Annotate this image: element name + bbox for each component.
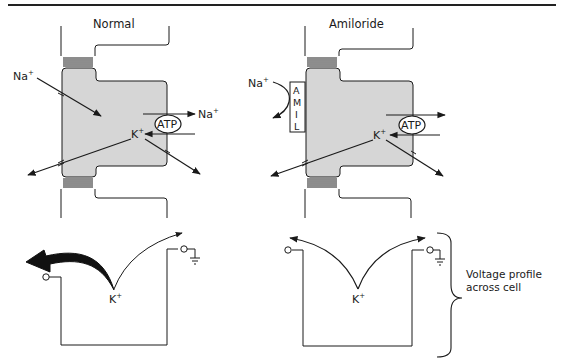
profile-k-label: K+ [109,292,122,306]
epithelial-cell [62,68,167,177]
diagram-canvas: Normal Na+ Na+ ATP K+ [0,0,562,360]
blocker-letter: A [293,85,300,96]
atp-label: ATP [401,119,421,132]
na-out-label: Na+ [198,107,219,121]
na-ion-label: Na+ [13,69,34,83]
panel-title-amiloride: Amiloride [329,17,384,31]
tight-junction-bottom [63,179,93,187]
small-profile-arrow [114,233,182,289]
na-blocked-arrow [273,82,289,118]
electrode-left [43,274,49,280]
ground-icon [433,250,445,265]
blocker-letter: I [295,109,298,120]
profile-k-label: K+ [352,292,365,306]
profile-arrow-right [358,238,425,289]
brace-caption: Voltage profile across cell [466,268,542,294]
large-depolarization-arrow [26,250,114,290]
blocker-letter: M [293,97,301,108]
panel-normal: Normal Na+ Na+ ATP K+ [13,17,219,345]
na-ion-label: Na+ [248,76,269,90]
atp-label: ATP [157,118,177,131]
blocker-letter: L [294,121,300,132]
panel-amiloride: Amiloride A M I L Na+ ATP K+ [248,17,445,346]
neighbor-cell-bottom [305,189,411,218]
brace-caption-line2: across cell [466,281,542,294]
voltage-profile-brace [437,233,462,357]
electrode-left [285,247,291,253]
panel-title-normal: Normal [93,17,135,31]
tight-junction-top [307,58,337,66]
ground-icon [187,249,200,264]
profile-arrow-left [290,238,358,289]
tight-junction-bottom [307,179,337,187]
tight-junction-top [63,58,93,66]
electrode-right [427,247,433,253]
neighbor-cell-bottom [61,189,167,218]
brace-caption-line1: Voltage profile [466,268,542,281]
electrode-right [181,246,187,252]
epithelial-cell [306,68,413,177]
